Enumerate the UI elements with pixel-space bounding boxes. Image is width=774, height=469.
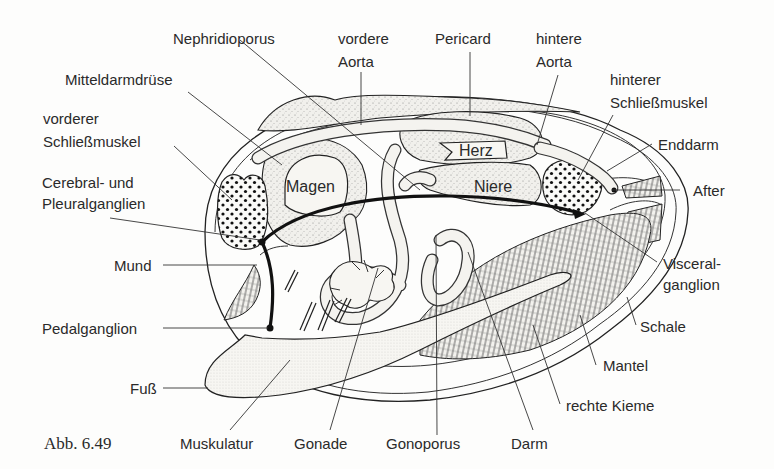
- label-schale: Schale: [640, 318, 686, 335]
- label-mitteldarmdruese: Mitteldarmdrüse: [65, 71, 173, 88]
- labial-palp: [224, 265, 260, 320]
- label-herz: Herz: [459, 142, 493, 159]
- label-niere: Niere: [474, 178, 512, 195]
- label-vorderer-schliessmuskel-line2: Schließmuskel: [43, 133, 141, 150]
- figure-caption: Abb. 6.49: [44, 434, 112, 454]
- label-muskulatur: Muskulatur: [180, 435, 253, 452]
- bivalve-anatomy-figure: Nephridioporus vordere Aorta Pericard hi…: [0, 0, 774, 469]
- label-nephridioporus: Nephridioporus: [173, 30, 275, 47]
- label-pericard: Pericard: [435, 30, 491, 47]
- label-hinterer-schliessmuskel-line1: hinterer: [610, 71, 661, 88]
- label-hintere-aorta-line1: hintere: [536, 30, 582, 47]
- anterior-adductor-muscle: [218, 175, 268, 250]
- label-mund: Mund: [114, 257, 152, 274]
- label-hinterer-schliessmuskel-line2: Schließmuskel: [610, 94, 708, 111]
- label-pedalganglion: Pedalganglion: [42, 320, 137, 337]
- label-visceralganglion-line1: Visceral-: [663, 255, 721, 272]
- label-gonoporus: Gonoporus: [386, 435, 460, 452]
- label-cerebral-line2: Pleuralganglien: [42, 195, 145, 212]
- label-fuss: Fuß: [130, 380, 157, 397]
- label-visceralganglion-line2: ganglion: [663, 276, 720, 293]
- label-vordere-aorta-line1: vordere: [338, 30, 389, 47]
- label-magen: Magen: [286, 178, 335, 195]
- label-vorderer-schliessmuskel-line1: vorderer: [43, 110, 99, 127]
- label-rechte-kieme: rechte Kieme: [566, 397, 654, 414]
- label-after: After: [693, 182, 725, 199]
- label-darm: Darm: [511, 435, 548, 452]
- label-mantel: Mantel: [603, 357, 648, 374]
- label-cerebral-line1: Cerebral- und: [42, 174, 134, 191]
- label-enddarm: Enddarm: [658, 136, 719, 153]
- label-vordere-aorta-line2: Aorta: [338, 53, 374, 70]
- pedal-nerve-cord: [262, 242, 273, 328]
- label-gonade: Gonade: [294, 435, 347, 452]
- label-hintere-aorta-line2: Aorta: [536, 53, 572, 70]
